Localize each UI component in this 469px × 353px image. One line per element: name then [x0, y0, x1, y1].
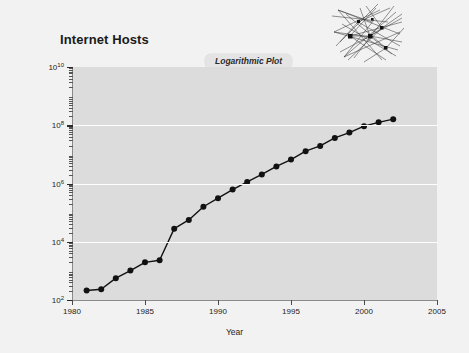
gridline: [72, 184, 437, 185]
x-axis-tick: [72, 300, 73, 305]
data-point: [186, 217, 192, 223]
y-axis-minor-tick: [69, 156, 73, 157]
x-axis-tick-label: 1990: [209, 307, 227, 316]
y-axis-minor-tick: [69, 245, 73, 246]
y-axis-minor-tick: [69, 137, 73, 138]
y-axis-minor-tick: [69, 286, 73, 287]
x-axis-tick-label: 1995: [282, 307, 300, 316]
y-axis-minor-tick: [69, 257, 73, 258]
y-axis-minor-tick: [69, 127, 73, 128]
y-axis-minor-tick: [69, 243, 73, 244]
data-point: [332, 135, 338, 141]
series-line: [87, 119, 394, 290]
data-point: [215, 195, 221, 201]
network-mesh-graphic: [330, 2, 405, 64]
y-axis-minor-tick: [69, 185, 73, 186]
y-axis-minor-tick: [69, 228, 73, 229]
y-axis-minor-tick: [69, 262, 73, 263]
y-axis-minor-tick: [69, 87, 73, 88]
y-axis-minor-tick: [69, 224, 73, 225]
y-axis-minor-tick: [69, 275, 73, 276]
x-axis-tick-label: 2005: [428, 307, 446, 316]
y-axis-minor-tick: [69, 70, 73, 71]
data-point: [157, 257, 163, 263]
y-axis-minor-tick: [69, 246, 73, 247]
x-axis-tick-label: 1985: [136, 307, 154, 316]
y-axis-minor-tick: [69, 190, 73, 191]
y-axis-minor-tick: [69, 159, 73, 160]
y-axis-minor-tick: [69, 272, 73, 273]
y-axis-minor-tick: [69, 291, 73, 292]
y-axis-minor-tick: [69, 274, 73, 275]
data-point: [346, 130, 352, 136]
y-axis-minor-tick: [69, 103, 73, 104]
x-axis-tick: [437, 300, 438, 305]
data-point: [142, 259, 148, 265]
y-axis-minor-tick: [69, 188, 73, 189]
plot-area: [72, 67, 437, 300]
y-axis-minor-tick: [69, 248, 73, 249]
y-axis-minor-tick: [69, 217, 73, 218]
data-point: [273, 163, 279, 169]
y-axis-minor-tick: [69, 280, 73, 281]
y-axis-minor-tick: [69, 251, 73, 252]
y-axis-minor-tick: [69, 101, 73, 102]
y-axis-tick-label: 106: [52, 178, 64, 189]
y-axis-minor-tick: [69, 214, 73, 215]
y-axis-minor-tick: [69, 192, 73, 193]
data-point: [317, 143, 323, 149]
y-axis-minor-tick: [69, 132, 73, 133]
y-axis-minor-tick: [69, 76, 73, 77]
y-axis-tick-label: 108: [52, 120, 64, 131]
page-title: Internet Hosts: [60, 32, 149, 47]
y-axis-minor-tick: [69, 82, 73, 83]
data-point: [390, 116, 396, 122]
y-axis-minor-tick: [69, 233, 73, 234]
y-axis-minor-tick: [69, 253, 73, 254]
y-axis-minor-tick: [69, 105, 73, 106]
x-axis-tick: [364, 300, 365, 305]
y-axis-minor-tick: [69, 215, 73, 216]
data-point: [288, 157, 294, 163]
y-axis-tick-label: 104: [52, 236, 64, 247]
x-axis-title: Year: [0, 327, 469, 337]
y-axis-minor-tick: [69, 163, 73, 164]
y-axis-minor-tick: [69, 161, 73, 162]
y-axis-minor-tick: [69, 204, 73, 205]
y-axis-minor-tick: [69, 134, 73, 135]
gridline: [72, 242, 437, 243]
y-axis-minor-tick: [69, 157, 73, 158]
y-axis-minor-tick: [69, 130, 73, 131]
y-axis-tick-label: 1010: [48, 62, 64, 73]
y-axis-minor-tick: [69, 186, 73, 187]
y-axis-minor-tick: [69, 79, 73, 80]
x-axis-tick-label: 1980: [63, 307, 81, 316]
y-axis-minor-tick: [69, 221, 73, 222]
data-point: [259, 171, 265, 177]
y-axis-minor-tick: [69, 199, 73, 200]
y-axis-minor-tick: [69, 277, 73, 278]
y-axis-minor-tick: [69, 195, 73, 196]
data-point: [113, 275, 119, 281]
data-point: [200, 204, 206, 210]
y-axis-minor-tick: [69, 68, 73, 69]
y-axis-minor-tick: [69, 108, 73, 109]
y-axis-tick-label: 102: [52, 295, 64, 306]
y-axis-minor-tick: [69, 128, 73, 129]
gridline: [72, 125, 437, 126]
data-point: [127, 268, 133, 274]
y-axis-minor-tick: [69, 97, 73, 98]
data-point: [303, 148, 309, 154]
data-point: [98, 286, 104, 292]
y-axis-minor-tick: [69, 219, 73, 220]
y-axis-minor-tick: [69, 140, 73, 141]
x-axis-tick: [145, 300, 146, 305]
y-axis-minor-tick: [69, 72, 73, 73]
y-axis-minor-tick: [69, 116, 73, 117]
y-axis-minor-tick: [69, 99, 73, 100]
data-point: [230, 187, 236, 193]
x-axis-tick: [218, 300, 219, 305]
x-axis-line: [72, 300, 437, 301]
y-axis-minor-tick: [69, 73, 73, 74]
chart-root: Internet Hosts Logarithmic Plot: [0, 0, 469, 353]
